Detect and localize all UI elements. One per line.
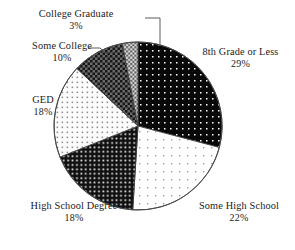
pie-label-some-college-name: Some College <box>2 40 122 52</box>
pie-label-some-high-school-percent: 22% <box>183 212 295 224</box>
leader-line-college-graduate <box>145 18 160 46</box>
pie-chart: College Graduate 3% Some College 10% GED… <box>0 0 295 250</box>
pie-label-8th-grade-or-less-percent: 29% <box>186 58 295 70</box>
pie-label-some-college: Some College 10% <box>2 40 122 64</box>
pie-label-ged-name: GED <box>4 94 82 106</box>
pie-label-college-graduate-percent: 3% <box>8 20 144 32</box>
pie-label-8th-grade-or-less: 8th Grade or Less 29% <box>186 46 295 70</box>
pie-label-some-high-school: Some High School 22% <box>183 200 295 224</box>
pie-label-high-school-degree: High School Degree 18% <box>0 200 148 224</box>
pie-label-ged-percent: 18% <box>4 106 82 118</box>
pie-label-some-college-percent: 10% <box>2 52 122 64</box>
pie-label-college-graduate: College Graduate 3% <box>8 8 144 32</box>
pie-label-high-school-degree-name: High School Degree <box>0 200 148 212</box>
pie-label-8th-grade-or-less-name: 8th Grade or Less <box>186 46 295 58</box>
pie-label-some-high-school-name: Some High School <box>183 200 295 212</box>
pie-label-high-school-degree-percent: 18% <box>0 212 148 224</box>
pie-label-college-graduate-name: College Graduate <box>8 8 144 20</box>
pie-label-ged: GED 18% <box>4 94 82 118</box>
